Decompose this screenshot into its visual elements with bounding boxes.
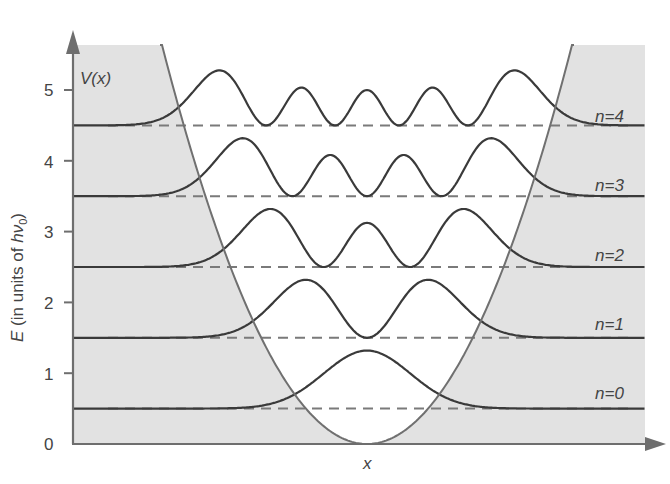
x-axis-arrow-icon <box>645 437 666 451</box>
y-tick-label-5: 5 <box>44 82 53 99</box>
y-tick-label-1: 1 <box>44 366 53 383</box>
y-axis-arrow-icon <box>66 30 80 54</box>
level-label-n3: n=3 <box>595 177 624 194</box>
y-tick-label-4: 4 <box>44 154 53 171</box>
y-tick-label-3: 3 <box>44 224 53 241</box>
level-label-n1: n=1 <box>595 316 624 333</box>
level-label-n4: n=4 <box>595 108 624 125</box>
x-axis-label: x <box>363 455 372 472</box>
y-ticks <box>64 90 73 373</box>
y-tick-label-2: 2 <box>44 295 53 312</box>
forbidden-region <box>73 45 645 444</box>
y-tick-label-0: 0 <box>44 436 53 453</box>
level-label-n2: n=2 <box>595 247 624 264</box>
potential-label: V(x) <box>80 70 111 87</box>
level-label-n0: n=0 <box>595 385 624 402</box>
